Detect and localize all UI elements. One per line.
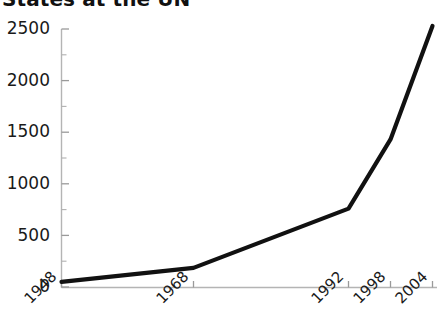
data-line-states-at-the-un [62,26,433,282]
y-tick-label-1500: 1500 [2,123,50,140]
chart-container: States at the UN [0,0,443,326]
y-minor-ticks [62,55,67,261]
y-tick-label-2000: 2000 [2,72,50,89]
y-tick-label-1000: 1000 [2,175,50,192]
y-tick-label-500: 500 [2,227,50,244]
y-tick-label-2500: 2500 [2,20,50,37]
plot-area: 2500 2000 1500 1000 500 0 1948 1968 1992… [0,0,443,326]
